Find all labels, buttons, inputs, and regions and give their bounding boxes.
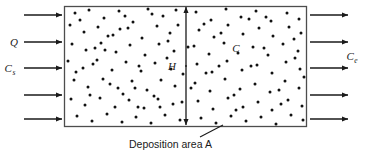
particle-dot bbox=[227, 24, 230, 27]
particle-dot bbox=[280, 103, 283, 106]
particle-dot bbox=[211, 71, 214, 74]
particle-dot bbox=[140, 70, 143, 73]
particle-dot bbox=[117, 87, 120, 90]
particle-dot bbox=[213, 36, 216, 39]
inlet-flow-arrows bbox=[24, 15, 62, 119]
particle-dot bbox=[230, 115, 233, 118]
particle-dot bbox=[153, 95, 156, 98]
particle-dot bbox=[129, 44, 132, 47]
particle-dot bbox=[141, 37, 144, 40]
particle-dot bbox=[248, 18, 251, 21]
particle-dot bbox=[143, 107, 146, 110]
particle-dot bbox=[271, 72, 274, 75]
particle-dot bbox=[270, 20, 273, 23]
particle-dot bbox=[70, 98, 73, 101]
particle-dot bbox=[74, 12, 77, 15]
particle-dot bbox=[121, 121, 124, 124]
particle-dot bbox=[169, 32, 172, 35]
particle-dot bbox=[284, 80, 287, 83]
particle-dot bbox=[146, 89, 149, 92]
particle-dot bbox=[208, 53, 211, 56]
particle-dot bbox=[91, 120, 94, 123]
particle-dot bbox=[212, 108, 215, 111]
particle-dot bbox=[83, 31, 86, 34]
particle-dot bbox=[282, 43, 285, 46]
particle-dot bbox=[109, 83, 112, 86]
particle-dot bbox=[147, 8, 150, 11]
particle-dot bbox=[134, 87, 137, 90]
particle-dot bbox=[118, 10, 121, 13]
particle-dot bbox=[298, 87, 301, 90]
particle-dot bbox=[300, 32, 303, 35]
outlet-flow-arrows bbox=[310, 15, 348, 119]
particle-dot bbox=[119, 28, 122, 31]
particle-dot bbox=[298, 18, 301, 21]
particle-dot bbox=[226, 60, 229, 63]
particle-dot bbox=[104, 49, 107, 52]
particle-dot bbox=[127, 27, 130, 30]
flow-rate-label: Q bbox=[10, 36, 18, 48]
particle-dot bbox=[227, 97, 230, 100]
particle-dot bbox=[115, 51, 118, 54]
particle-dot bbox=[71, 43, 74, 46]
particle-dot bbox=[132, 21, 135, 24]
particle-dot bbox=[131, 80, 134, 83]
particle-dot bbox=[181, 101, 184, 104]
particle-dot bbox=[135, 116, 138, 119]
particle-dot bbox=[294, 57, 297, 60]
particle-dot bbox=[235, 109, 238, 112]
particle-dot bbox=[187, 46, 190, 49]
particle-dot bbox=[190, 87, 193, 90]
particle-dot bbox=[242, 106, 245, 109]
particle-dot bbox=[209, 90, 212, 93]
particle-dot bbox=[87, 86, 90, 89]
particle-dot bbox=[94, 47, 97, 50]
particle-dot bbox=[125, 61, 128, 64]
particle-dot bbox=[241, 69, 244, 72]
particle-dot bbox=[75, 71, 78, 74]
particle-dot bbox=[114, 106, 117, 109]
particle-dot bbox=[272, 35, 275, 38]
particle-dot bbox=[220, 32, 223, 35]
particle-dot bbox=[239, 88, 242, 91]
particle-dot bbox=[223, 42, 226, 45]
particle-dot bbox=[297, 50, 300, 53]
particle-dot bbox=[151, 13, 154, 16]
particle-dot bbox=[286, 12, 289, 15]
particle-dot bbox=[167, 40, 170, 43]
particle-dot bbox=[205, 72, 208, 75]
particle-dot bbox=[303, 76, 306, 79]
particle-dot bbox=[200, 117, 203, 120]
particle-dot bbox=[102, 78, 105, 81]
particle-dot bbox=[89, 94, 92, 97]
particle-dot bbox=[107, 35, 110, 38]
particle-dot bbox=[198, 29, 201, 32]
particle-dot bbox=[144, 54, 147, 57]
height-label: H bbox=[167, 60, 177, 72]
particle-dot bbox=[256, 64, 259, 67]
particle-dot bbox=[301, 105, 304, 108]
exit-concentration-label: Ce bbox=[346, 50, 358, 65]
particle-dot bbox=[260, 116, 263, 119]
source-concentration-label: Cs bbox=[5, 62, 16, 77]
particle-dot bbox=[254, 83, 257, 86]
particle-dot bbox=[288, 26, 291, 29]
particle-dot bbox=[99, 97, 102, 100]
particle-dot bbox=[164, 114, 167, 117]
particle-dot bbox=[137, 106, 140, 109]
particle-dot bbox=[96, 59, 99, 62]
particle-dot bbox=[103, 17, 106, 20]
particle-dot bbox=[255, 10, 258, 13]
particle-dot bbox=[92, 63, 95, 66]
particle-dot bbox=[269, 91, 272, 94]
particle-dot bbox=[112, 34, 115, 37]
particle-dot bbox=[240, 16, 243, 19]
particle-dot bbox=[233, 94, 236, 97]
particle-dot bbox=[193, 45, 196, 48]
particle-dot bbox=[79, 19, 82, 22]
particle-dot bbox=[175, 9, 178, 12]
particle-dot bbox=[97, 26, 100, 29]
particle-dot bbox=[242, 33, 245, 36]
particle-dot bbox=[271, 109, 274, 112]
particle-dot bbox=[299, 68, 302, 71]
